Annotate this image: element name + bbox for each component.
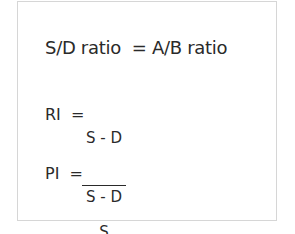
pi-label: PI = [45,164,83,183]
ri-label: RI = [45,105,84,124]
pi-formula: PI = S - D V [45,152,55,209]
pi-fraction: S - D V [82,152,126,234]
ri-numerator: S - D [82,129,126,148]
pi-numerator: S - D [82,188,126,207]
sd-ratio-formula: S/D ratio = A/B ratio [45,37,227,58]
ri-formula: RI = S - D S [45,93,55,150]
